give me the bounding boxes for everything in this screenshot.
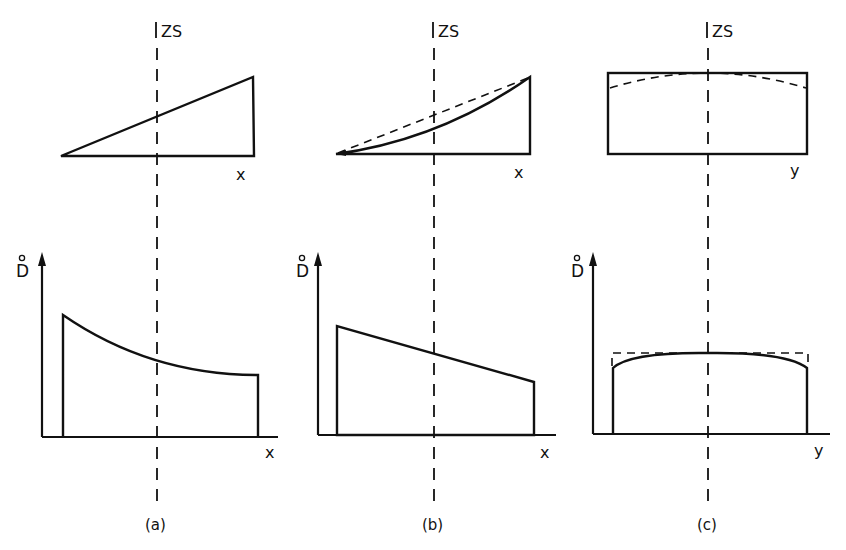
y-label-top-c: y [790,161,799,180]
x-label-bottom-c: y [814,441,823,460]
x-label-bottom-a: x [265,443,274,462]
y-label-accent-b [299,255,304,260]
caption-b: (b) [422,516,443,534]
y-label-a: D [16,261,29,281]
panel-a: ZS x D x (a) [16,22,278,534]
profile-dome-c [613,353,807,434]
panel-b: ZS x D x (b) [296,22,556,534]
x-label-bottom-b: x [540,443,549,462]
x-label-top-b: x [514,163,523,182]
symmetry-label-b: ZS [438,22,459,41]
caption-c: (c) [697,516,717,534]
linear-reference-b [338,78,528,153]
wedge-shape-a [61,77,254,156]
profile-line-b [337,326,534,435]
caption-a: (a) [145,516,166,534]
y-label-c: D [571,261,584,281]
y-axis-arrow-icon [589,252,597,266]
figure: ZS x D x (a) ZS x D x (b) [0,0,846,550]
panel-c: ZS y D y (c) [571,22,830,534]
y-label-b: D [296,261,309,281]
symmetry-label-c: ZS [712,22,733,41]
profile-curve-a [63,315,258,437]
y-label-accent-c [574,255,579,260]
symmetry-label-a: ZS [161,22,182,41]
x-label-top-a: x [236,165,245,184]
y-label-accent-a [19,255,24,260]
y-axis-arrow-icon [314,252,322,266]
y-axis-arrow-icon [38,252,46,266]
rect-reference-c [612,353,808,366]
